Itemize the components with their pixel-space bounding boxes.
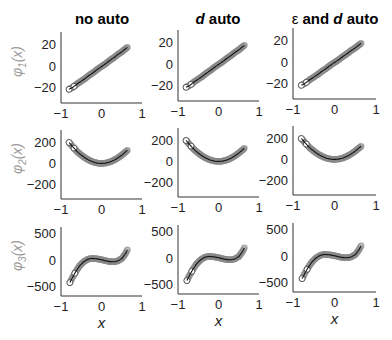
plot-r2-c1: 2000−200−101	[27, 130, 146, 217]
y-tick-label: 500	[151, 224, 173, 239]
y-tick-label: 0	[166, 154, 173, 169]
plot-r2-c3: 2000−200−101	[259, 126, 380, 213]
x-tick-label: 0	[215, 104, 222, 119]
x-tick-label: 0	[331, 295, 338, 310]
plot-r3-c1: 5000−500−101x	[27, 226, 146, 331]
y-tick-label: 200	[34, 135, 56, 150]
x-tick-label: 1	[372, 295, 379, 310]
y-tick-label: 500	[34, 226, 56, 241]
y-tick-label: −200	[144, 175, 173, 190]
x-tick-label: −1	[171, 104, 186, 119]
x-tick-label: 1	[372, 198, 379, 213]
y-axis-label-row3: φ3(x)	[9, 240, 28, 271]
y-tick-label: −20	[151, 78, 173, 93]
y-tick-label: 0	[281, 55, 288, 70]
x-tick-label: 0	[215, 200, 222, 215]
x-tick-label: 0	[215, 297, 222, 312]
plot-r3-c3: 5000−500−101x	[259, 222, 380, 327]
x-tick-label: 0	[98, 299, 105, 314]
x-tick-label: 1	[255, 104, 262, 119]
y-tick-label: 200	[266, 131, 288, 146]
y-tick-label: 0	[166, 251, 173, 266]
x-tick-label: −1	[171, 200, 186, 215]
x-tick-label: −1	[54, 202, 69, 217]
x-tick-label: 1	[255, 297, 262, 312]
x-tick-label: 1	[138, 202, 145, 217]
x-tick-label: 0	[331, 198, 338, 213]
y-axis-label-row2: φ2(x)	[9, 143, 28, 174]
x-tick-label: −1	[286, 295, 301, 310]
plot-r2-c2: 2000−200−101	[144, 128, 263, 215]
plot-r1-c2: 200−20−101	[151, 30, 263, 119]
plot-canvas: 200−20−101200−20−101200−20−101φ1(x)2000−…	[0, 0, 392, 340]
x-tick-label: −1	[286, 102, 301, 117]
x-tick-label: 0	[331, 102, 338, 117]
figure-grid: no auto d auto ε and d auto 200−20−10120…	[0, 0, 392, 340]
y-tick-label: −20	[266, 76, 288, 91]
fit-line	[301, 43, 361, 85]
plot-r1-c3: 200−20−101	[266, 28, 380, 117]
x-tick-label: 0	[98, 106, 105, 121]
y-tick-label: 0	[166, 57, 173, 72]
plot-r3-c2: 5000−500−101x	[144, 224, 263, 329]
y-tick-label: −200	[27, 177, 56, 192]
x-axis-label: x	[97, 314, 106, 331]
y-tick-label: −500	[144, 277, 173, 292]
fit-line	[69, 47, 127, 89]
y-tick-label: 0	[49, 156, 56, 171]
x-axis-label: x	[330, 310, 339, 327]
x-tick-label: 1	[138, 106, 145, 121]
x-tick-label: 1	[255, 200, 262, 215]
x-tick-label: −1	[54, 299, 69, 314]
x-tick-label: −1	[286, 198, 301, 213]
y-tick-label: 0	[49, 253, 56, 268]
x-tick-label: 0	[98, 202, 105, 217]
y-tick-label: −500	[27, 279, 56, 294]
y-tick-label: 200	[151, 133, 173, 148]
y-tick-label: 20	[274, 33, 288, 48]
y-tick-label: 0	[281, 152, 288, 167]
y-tick-label: 20	[159, 35, 173, 50]
y-axis-label-row1: φ1(x)	[9, 46, 28, 77]
x-tick-label: −1	[54, 106, 69, 121]
y-tick-label: 500	[266, 222, 288, 237]
y-tick-label: 0	[281, 249, 288, 264]
x-tick-label: −1	[171, 297, 186, 312]
fit-line	[186, 45, 244, 87]
y-tick-label: 20	[42, 37, 56, 52]
y-tick-label: 0	[49, 59, 56, 74]
y-tick-label: −20	[34, 80, 56, 95]
y-tick-label: −500	[259, 275, 288, 290]
x-tick-label: 1	[138, 299, 145, 314]
plot-r1-c1: 200−20−101	[34, 32, 146, 121]
x-axis-label: x	[214, 312, 223, 329]
y-tick-label: −200	[259, 173, 288, 188]
x-tick-label: 1	[372, 102, 379, 117]
